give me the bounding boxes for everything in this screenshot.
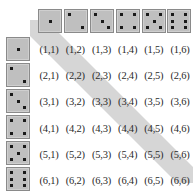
pip [17,100,20,103]
pip [171,13,174,16]
die-face-5-icon [142,9,166,33]
grid-cell: (2,4) [115,62,141,88]
grid-cell: (4,5) [141,115,167,141]
pip [10,171,13,174]
die-face-3-icon [6,89,30,113]
grid-cell: (6,5) [141,167,167,193]
die-face-2-icon [64,9,88,33]
pip [159,26,162,29]
pip [101,20,104,23]
grid-cell: (2,2) [62,62,88,88]
die-face-1-icon [38,9,62,33]
die-face-4-icon [6,115,30,139]
pip [171,26,174,29]
pip [153,20,156,23]
grid-cell: (4,4) [115,115,141,141]
pip [23,80,26,83]
die-face-6-icon [6,167,30,191]
pip [68,13,71,16]
die-face-3-icon [90,9,114,33]
grid-cell: (3,6) [167,89,193,115]
die-face-6-icon [167,9,191,33]
grid-cell: (2,3) [88,62,114,88]
pip [184,13,187,16]
pip [10,184,13,187]
die-face-1-icon [6,37,30,61]
grid-cell: (1,5) [141,36,167,62]
die-face-4-icon [116,9,140,33]
pip [23,184,26,187]
pip [10,158,13,161]
grid-cell: (3,2) [62,89,88,115]
pip [23,119,26,122]
pip [184,20,187,23]
grid-cell: (1,2) [62,36,88,62]
grid-cell: (3,5) [141,89,167,115]
grid-cell: (5,4) [115,141,141,167]
grid-cell: (4,3) [88,115,114,141]
grid-cell: (1,1) [36,36,62,62]
pip [23,158,26,161]
pip [23,106,26,109]
grid-cell: (5,1) [36,141,62,167]
grid-cell: (6,4) [115,167,141,193]
pip [10,119,13,122]
pip [23,132,26,135]
grid-cell: (3,1) [36,89,62,115]
grid-cell: (6,3) [88,167,114,193]
grid-cell: (2,6) [167,62,193,88]
grid-cell: (6,1) [36,167,62,193]
grid-cell: (3,4) [115,89,141,115]
pip [81,26,84,29]
pip [49,20,52,23]
sample-space-grid: (1,1) (1,2) (1,3) (1,4) (1,5) (1,6) (2,1… [36,36,193,194]
grid-cell: (5,6) [167,141,193,167]
pip [10,132,13,135]
pip [133,26,136,29]
pip [23,178,26,181]
pip [184,26,187,29]
pip [94,13,97,16]
grid-cell: (5,5) [141,141,167,167]
dice-sample-space-figure: (1,1) (1,2) (1,3) (1,4) (1,5) (1,6) (2,1… [0,0,193,194]
pip [17,48,20,51]
grid-cell: (2,5) [141,62,167,88]
grid-cell: (1,6) [167,36,193,62]
pip [10,178,13,181]
pip [146,13,149,16]
pip [133,13,136,16]
grid-cell: (3,3) [88,89,114,115]
grid-cell: (1,3) [88,36,114,62]
pip [23,171,26,174]
grid-cell: (5,2) [62,141,88,167]
grid-cell: (6,6) [167,167,193,193]
pip [120,26,123,29]
grid-cell: (5,3) [88,141,114,167]
grid-cell: (4,1) [36,115,62,141]
grid-cell: (6,2) [62,167,88,193]
pip [159,13,162,16]
die-face-5-icon [6,141,30,165]
pip [17,152,20,155]
grid-cell: (4,6) [167,115,193,141]
pip [10,67,13,70]
grid-cell: (2,1) [36,62,62,88]
pip [120,13,123,16]
pip [107,26,110,29]
pip [10,93,13,96]
grid-cell: (1,4) [115,36,141,62]
pip [23,145,26,148]
pip [146,26,149,29]
die-face-2-icon [6,63,30,87]
grid-cell: (4,2) [62,115,88,141]
pip [10,145,13,148]
pip [171,20,174,23]
